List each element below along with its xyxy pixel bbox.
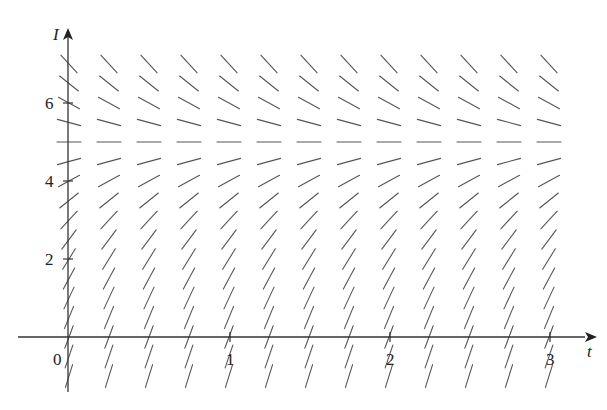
slope-segment xyxy=(544,306,553,328)
slope-segment xyxy=(141,55,157,73)
slope-segment xyxy=(504,306,513,328)
slope-segment xyxy=(543,268,554,289)
slope-segment xyxy=(61,211,77,229)
slope-segment xyxy=(143,268,154,289)
slope-segment xyxy=(178,97,199,108)
slope-segment xyxy=(260,193,279,208)
slope-segment xyxy=(97,158,120,164)
slope-segment xyxy=(465,345,473,368)
slope-segment xyxy=(104,306,113,328)
slope-segment xyxy=(98,97,119,108)
slope-segment xyxy=(500,193,519,208)
slope-segment xyxy=(457,119,480,125)
slope-segment xyxy=(144,287,154,309)
slope-segment xyxy=(537,119,560,125)
slope-segment xyxy=(60,193,79,208)
slope-segment xyxy=(97,119,120,125)
slope-segment xyxy=(102,230,116,249)
slope-segment xyxy=(377,119,400,125)
slope-segment xyxy=(297,158,320,164)
slope-segment xyxy=(137,119,160,125)
t-axis-arrow-icon xyxy=(585,332,597,342)
slope-segment xyxy=(338,175,359,186)
slope-segment xyxy=(177,119,200,125)
slope-segment xyxy=(224,287,234,309)
x-tick-label: 2 xyxy=(386,350,395,369)
slope-segment xyxy=(298,175,319,186)
slope-segment xyxy=(497,119,520,125)
slope-segment xyxy=(98,175,119,186)
slope-segment xyxy=(138,97,159,108)
slope-segment xyxy=(143,249,156,269)
x-tick-label: 3 xyxy=(546,350,555,369)
slope-segment xyxy=(498,175,519,186)
slope-segment xyxy=(103,268,114,289)
slope-segment xyxy=(424,287,434,309)
slope-segment xyxy=(223,249,236,269)
slope-segment xyxy=(541,211,557,229)
y-tick-label: 4 xyxy=(45,172,54,191)
slope-segment xyxy=(384,306,393,328)
slope-segment xyxy=(265,365,272,388)
slope-segment xyxy=(305,365,312,388)
slope-segment xyxy=(543,249,556,269)
slope-segment xyxy=(341,211,357,229)
slope-segment xyxy=(457,158,480,164)
slope-segment xyxy=(503,249,516,269)
slope-segment xyxy=(64,287,74,309)
slope-segment xyxy=(105,345,113,368)
slope-segment xyxy=(383,249,396,269)
slope-segment xyxy=(423,249,436,269)
slope-segment xyxy=(221,211,237,229)
slope-segment xyxy=(544,287,554,309)
slope-segment xyxy=(305,345,313,368)
slope-segment xyxy=(343,249,356,269)
slope-segment xyxy=(337,119,360,125)
slope-segment xyxy=(344,306,353,328)
slope-segment xyxy=(464,306,473,328)
slope-segment xyxy=(503,268,514,289)
slope-segment xyxy=(264,306,273,328)
t-axis-label: t xyxy=(587,342,593,361)
slope-segment xyxy=(505,365,512,388)
slope-segment xyxy=(540,193,559,208)
x-tick-label: 1 xyxy=(226,350,235,369)
slope-segment xyxy=(264,287,274,309)
slope-segment xyxy=(61,55,77,73)
slope-segment xyxy=(218,175,239,186)
slope-segment xyxy=(304,306,313,328)
slope-segment xyxy=(541,55,557,73)
slope-segment xyxy=(222,230,236,249)
slope-segment xyxy=(460,193,479,208)
slope-segment xyxy=(258,97,279,108)
slope-segment xyxy=(378,175,399,186)
slope-segment xyxy=(464,287,474,309)
slope-segment xyxy=(382,230,396,249)
slope-segment xyxy=(221,55,237,73)
slope-segment xyxy=(177,158,200,164)
slope-segment xyxy=(140,76,159,91)
slope-segment xyxy=(184,287,194,309)
slope-segment xyxy=(180,193,199,208)
slope-segment xyxy=(461,211,477,229)
slope-segment xyxy=(101,211,117,229)
slope-segment xyxy=(340,76,359,91)
slope-segment xyxy=(344,287,354,309)
slope-segment xyxy=(217,119,240,125)
slope-segment xyxy=(504,287,514,309)
slope-segment xyxy=(421,211,437,229)
slope-segment xyxy=(182,230,196,249)
slope-segment xyxy=(500,76,519,91)
slope-segment xyxy=(538,97,559,108)
slope-segment xyxy=(263,268,274,289)
slope-segment xyxy=(105,365,112,388)
slope-segment xyxy=(423,268,434,289)
slope-segment xyxy=(381,55,397,73)
slope-segment xyxy=(465,365,472,388)
slope-segment xyxy=(300,193,319,208)
slope-segment xyxy=(501,55,517,73)
slope-segment xyxy=(138,175,159,186)
slope-segment xyxy=(217,158,240,164)
slope-segment xyxy=(140,193,159,208)
slope-segment xyxy=(100,76,119,91)
